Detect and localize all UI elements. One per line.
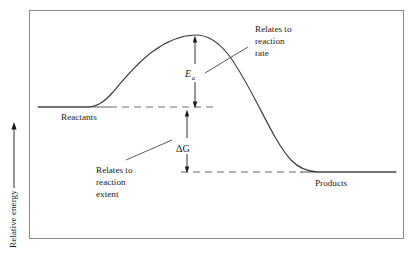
rate-callout-line-1: Relates to [255, 24, 292, 34]
extent-callout-line-1: Relates to [96, 165, 133, 175]
extent-callout-line-3: extent [96, 189, 119, 199]
activation-energy-subscript: a [192, 74, 196, 81]
reactants-label: Reactants [61, 112, 97, 122]
rate-callout-line-3: rate [255, 48, 269, 58]
extent-callout-line-2: reaction [96, 177, 126, 187]
free-energy-label: ΔG [176, 143, 190, 154]
activation-energy-symbol: E [184, 68, 191, 79]
y-axis-arrow [11, 122, 16, 188]
plot-frame [30, 11, 404, 239]
rate-callout-line-2: reaction [255, 36, 285, 46]
figure-container: Relative energy Ea ΔG [0, 0, 416, 256]
reaction-energy-diagram: Relative energy Ea ΔG [0, 0, 416, 256]
products-label: Products [315, 178, 348, 188]
y-axis-label: Relative energy [8, 190, 18, 248]
